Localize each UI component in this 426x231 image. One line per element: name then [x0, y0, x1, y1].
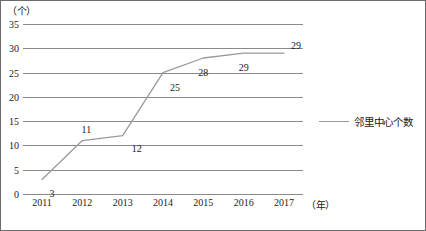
y-axis-unit-label: （个）	[7, 3, 36, 18]
x-axis-tick-label: 2015	[193, 197, 213, 208]
legend-item-label: 邻里中心个数	[354, 114, 413, 129]
x-axis-tick-label: 2014	[153, 197, 173, 208]
y-axis-tick-label: 30	[9, 43, 19, 54]
y-axis-tick-label: 5	[14, 164, 19, 175]
data-point-label: 11	[82, 123, 92, 134]
chart-screenshot: （个） 35302520151050 201120122013201420152…	[0, 0, 426, 231]
y-axis-tick-label: 0	[14, 189, 19, 200]
chart-legend: 邻里中心个数	[319, 114, 413, 129]
data-point-label: 25	[170, 81, 180, 92]
x-axis-tick-label: 2012	[72, 197, 92, 208]
y-axis-tick-label: 35	[9, 19, 19, 30]
series-line-chart	[23, 24, 303, 194]
gridline	[23, 194, 303, 195]
data-point-label: 29	[239, 62, 249, 73]
data-point-label: 29	[291, 40, 301, 51]
x-axis-tick-label: 2017	[274, 197, 294, 208]
data-point-label: 3	[50, 188, 55, 199]
y-axis-tick-label: 15	[9, 116, 19, 127]
y-axis-tick-label: 10	[9, 140, 19, 151]
y-axis-tick-label: 25	[9, 67, 19, 78]
plot-area: 35302520151050 2011201220132014201520162…	[23, 24, 303, 194]
x-axis-unit-label: （年）	[306, 197, 335, 212]
data-point-label: 28	[198, 67, 208, 78]
data-point-label: 12	[132, 142, 142, 153]
x-axis-tick-label: 2013	[113, 197, 133, 208]
x-axis-tick-label: 2016	[234, 197, 254, 208]
y-axis-tick-label: 20	[9, 91, 19, 102]
legend-line-swatch-icon	[319, 121, 349, 122]
